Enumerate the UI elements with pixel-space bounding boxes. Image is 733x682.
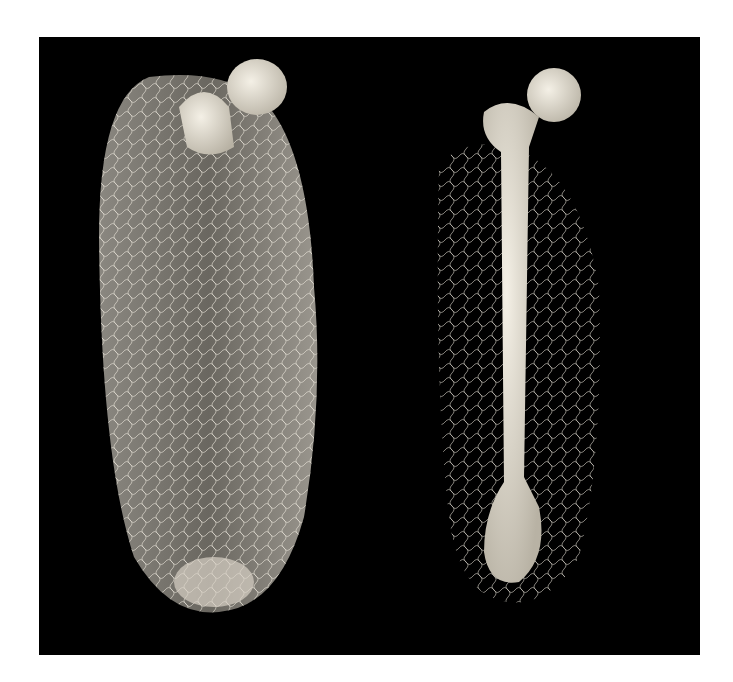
left-specimen [99,59,317,612]
specimens-illustration [39,37,700,655]
image-panel [39,37,700,655]
right-specimen [438,68,600,602]
